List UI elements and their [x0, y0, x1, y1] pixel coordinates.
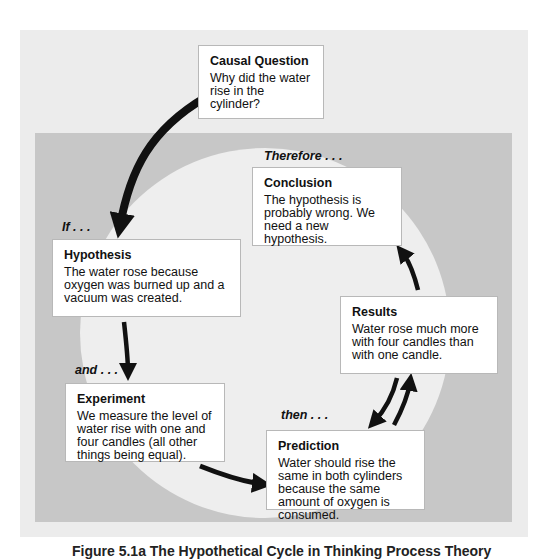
causal-question-text: Why did the water rise in the cylinder? [210, 72, 312, 111]
results-box: Results Water rose much more with four c… [340, 296, 498, 374]
arrow-question-to-hypothesis-icon [120, 97, 206, 226]
experiment-text: We measure the level of water rise with … [77, 410, 213, 462]
conclusion-text: The hypothesis is probably wrong. We nee… [264, 194, 390, 246]
hypothesis-text: The water rose because oxygen was burned… [64, 266, 229, 305]
connector-therefore: Therefore . . . [264, 149, 343, 163]
causal-question-box: Causal Question Why did the water rise i… [198, 45, 324, 119]
arrow-prediction-to-results-icon [394, 382, 410, 425]
prediction-text: Water should rise the same in both cylin… [278, 457, 413, 522]
connector-and: and . . . [75, 363, 118, 377]
results-title: Results [352, 305, 486, 319]
causal-question-title: Causal Question [210, 54, 312, 68]
connector-if: If . . . [62, 220, 90, 234]
hypothesis-title: Hypothesis [64, 248, 229, 262]
conclusion-title: Conclusion [264, 176, 390, 190]
arrow-experiment-to-prediction-icon [200, 466, 262, 484]
experiment-box: Experiment We measure the level of water… [65, 383, 225, 462]
arrow-results-to-prediction-icon [374, 378, 397, 422]
prediction-title: Prediction [278, 439, 413, 453]
connector-then: then . . . [281, 408, 328, 422]
arrow-results-to-conclusion-icon [402, 252, 418, 290]
experiment-title: Experiment [77, 392, 213, 406]
hypothesis-box: Hypothesis The water rose because oxygen… [52, 239, 241, 317]
figure-caption: Figure 5.1a The Hypothetical Cycle in Th… [72, 543, 491, 559]
conclusion-box: Conclusion The hypothesis is probably wr… [252, 167, 402, 246]
arrow-hypothesis-to-experiment-icon [124, 322, 128, 372]
results-text: Water rose much more with four candles t… [352, 323, 486, 362]
prediction-box: Prediction Water should rise the same in… [266, 430, 425, 510]
